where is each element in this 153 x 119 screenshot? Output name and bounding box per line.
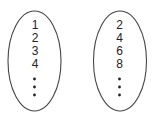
left-element-1: 1	[32, 18, 39, 32]
right-element-2: 4	[116, 31, 123, 45]
left-element-4: 4	[32, 57, 39, 71]
left-vertical-ellipsis-icon	[33, 78, 36, 97]
set-left: 1 2 3 4	[8, 11, 61, 111]
set-right: 2 4 6 8	[94, 11, 147, 111]
set-diagram: 1 2 3 4 2 4 6 8	[0, 0, 153, 119]
right-vertical-ellipsis-icon	[118, 78, 121, 97]
right-element-3: 6	[116, 44, 123, 58]
right-element-4: 8	[116, 57, 123, 71]
left-element-2: 2	[32, 31, 39, 45]
right-element-1: 2	[116, 18, 123, 32]
left-element-3: 3	[32, 44, 39, 58]
